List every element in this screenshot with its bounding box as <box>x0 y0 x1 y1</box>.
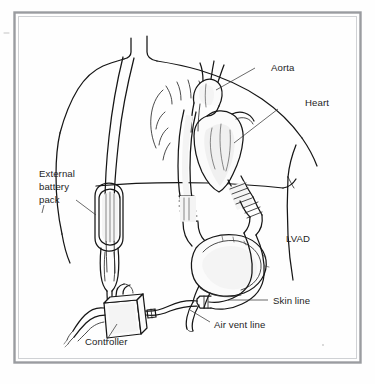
label-aorta: Aorta <box>271 62 295 73</box>
label-external-battery-pack-line1: External <box>39 168 75 179</box>
label-heart: Heart <box>305 97 329 108</box>
label-air-vent-line: Air vent line <box>214 319 265 330</box>
label-external-battery-pack-line3: pack <box>39 194 60 205</box>
label-skin-line: Skin line <box>273 295 310 306</box>
label-controller: Controller <box>85 336 128 347</box>
lvad-diagram-canvas: Aorta Heart LVAD External battery pack C… <box>0 0 375 384</box>
lvad-diagram-figure: Aorta Heart LVAD External battery pack C… <box>0 0 375 384</box>
label-external-battery-pack-line2: battery <box>39 181 69 192</box>
graft-ribbed-connector <box>179 196 198 222</box>
label-lvad: LVAD <box>286 233 310 244</box>
